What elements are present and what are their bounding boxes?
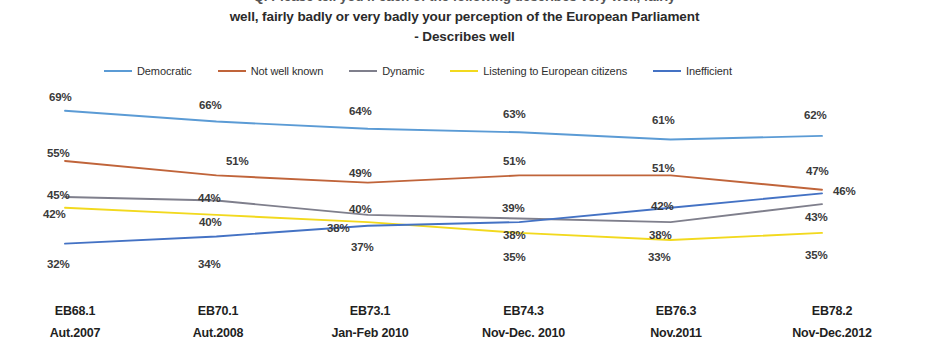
chart-title-line-2: well, fairly badly or very badly your pe… xyxy=(0,7,929,27)
legend-label-listening: Listening to European citizens xyxy=(483,65,627,77)
label-notwellknown-6: 47% xyxy=(806,165,828,177)
legend-item-inefficient[interactable]: Inefficient xyxy=(653,65,732,77)
label-notwellknown-3: 49% xyxy=(349,167,371,179)
label-listening-2: 40% xyxy=(199,216,221,228)
x-tick-3: EB74.3 Nov-Dec. 2010 xyxy=(446,300,601,344)
chart-plot-area xyxy=(0,88,929,278)
label-inefficient-4: 35% xyxy=(503,251,525,263)
legend-item-democratic[interactable]: Democratic xyxy=(104,65,192,77)
label-notwellknown-4: 51% xyxy=(503,155,525,167)
x-tick-3-period: Nov-Dec. 2010 xyxy=(446,322,601,344)
label-listening-3: 38% xyxy=(327,222,349,234)
x-tick-0-code: EB68.1 xyxy=(55,304,96,318)
legend-label-dynamic: Dynamic xyxy=(382,65,424,77)
series-line-democratic xyxy=(65,111,822,140)
x-tick-5-code: EB78.2 xyxy=(812,304,853,318)
legend-line-inefficient-icon xyxy=(653,70,681,72)
x-tick-4-period: Nov.2011 xyxy=(601,322,751,344)
legend-label-inefficient: Inefficient xyxy=(686,65,732,77)
label-democratic-6: 62% xyxy=(804,109,826,121)
legend-item-dynamic[interactable]: Dynamic xyxy=(349,65,424,77)
x-tick-5-period: Nov-Dec.2012 xyxy=(752,322,912,344)
label-listening-4: 38% xyxy=(503,229,525,241)
label-listening-6: 35% xyxy=(805,249,827,261)
label-dynamic-1: 45% xyxy=(47,189,69,201)
label-dynamic-4: 39% xyxy=(502,202,524,214)
legend-line-listening-icon xyxy=(450,70,478,72)
x-tick-2-code: EB73.1 xyxy=(350,304,391,318)
x-tick-3-code: EB74.3 xyxy=(503,304,544,318)
label-inefficient-6: 46% xyxy=(833,185,855,197)
label-inefficient-5: 33% xyxy=(648,251,670,263)
x-tick-0: EB68.1 Aut.2007 xyxy=(0,300,150,344)
label-inefficient-3: 37% xyxy=(351,241,373,253)
label-democratic-3: 64% xyxy=(349,105,371,117)
chart-title: Q. Please tell you if each of the follow… xyxy=(0,0,929,47)
label-inefficient-2: 34% xyxy=(198,258,220,270)
series-line-dynamic xyxy=(65,197,822,222)
legend-line-dynamic-icon xyxy=(349,70,377,72)
label-listening-5: 38% xyxy=(649,229,671,241)
x-tick-4-code: EB76.3 xyxy=(656,304,697,318)
series-line-not-well-known xyxy=(65,161,822,190)
label-listening-1: 42% xyxy=(43,208,65,220)
x-tick-2-period: Jan-Feb 2010 xyxy=(293,322,447,344)
chart-x-axis: EB68.1 Aut.2007 EB70.1 Aut.2008 EB73.1 J… xyxy=(0,300,929,354)
legend-label-not-well-known: Not well known xyxy=(251,65,324,77)
chart-title-line-1: Q. Please tell you if each of the follow… xyxy=(0,0,929,7)
label-dynamic-5: 42% xyxy=(651,200,673,212)
chart-legend: Democratic Not well known Dynamic Listen… xyxy=(104,65,824,77)
legend-line-democratic-icon xyxy=(104,70,132,72)
x-tick-4: EB76.3 Nov.2011 xyxy=(601,300,751,344)
legend-line-not-well-known-icon xyxy=(218,70,246,72)
legend-label-democratic: Democratic xyxy=(137,65,192,77)
x-tick-1-period: Aut.2008 xyxy=(143,322,293,344)
x-tick-0-period: Aut.2007 xyxy=(0,322,150,344)
label-dynamic-6: 43% xyxy=(805,211,827,223)
x-tick-5: EB78.2 Nov-Dec.2012 xyxy=(752,300,912,344)
x-tick-2: EB73.1 Jan-Feb 2010 xyxy=(293,300,447,344)
label-inefficient-1: 32% xyxy=(47,258,69,270)
label-democratic-2: 66% xyxy=(199,99,221,111)
chart-title-line-3: - Describes well xyxy=(0,27,929,47)
label-democratic-1: 69% xyxy=(49,91,71,103)
label-dynamic-2: 44% xyxy=(198,192,220,204)
label-notwellknown-2: 51% xyxy=(226,155,248,167)
chart-page: Q. Please tell you if each of the follow… xyxy=(0,0,929,354)
label-dynamic-3: 40% xyxy=(349,203,371,215)
label-notwellknown-5: 51% xyxy=(652,162,674,174)
legend-item-not-well-known[interactable]: Not well known xyxy=(218,65,324,77)
label-notwellknown-1: 55% xyxy=(47,147,69,159)
x-tick-1-code: EB70.1 xyxy=(198,304,239,318)
legend-item-listening[interactable]: Listening to European citizens xyxy=(450,65,627,77)
label-democratic-5: 61% xyxy=(652,114,674,126)
chart-lines-svg xyxy=(0,88,929,278)
label-democratic-4: 63% xyxy=(503,108,525,120)
x-tick-1: EB70.1 Aut.2008 xyxy=(143,300,293,344)
